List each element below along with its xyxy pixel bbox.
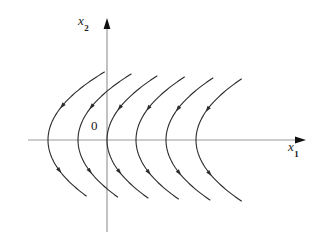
y-axis-label-base: x [78,13,84,28]
x-axis-label-base: x [288,139,294,154]
y-axis-arrowhead-icon [104,18,111,29]
trajectory-curve [107,76,157,198]
trajectory-curve [48,72,104,196]
origin-label: 0 [91,119,98,132]
phase-portrait-figure: x2 x1 0 [0,0,324,240]
trajectory-curve [166,78,213,200]
trajectory-curve [78,74,131,197]
x-axis-label: x1 [288,140,298,157]
flow-arrow-icon [56,167,61,173]
trajectory-curves-group [48,72,241,201]
y-axis-label-subscript: 2 [84,23,89,33]
trajectory-curve [136,77,184,199]
x-axis-label-subscript: 1 [294,149,299,159]
phase-portrait-canvas [0,0,324,240]
axes-group [28,18,306,232]
y-axis-label: x2 [78,14,88,31]
flow-arrows-group [56,102,212,176]
